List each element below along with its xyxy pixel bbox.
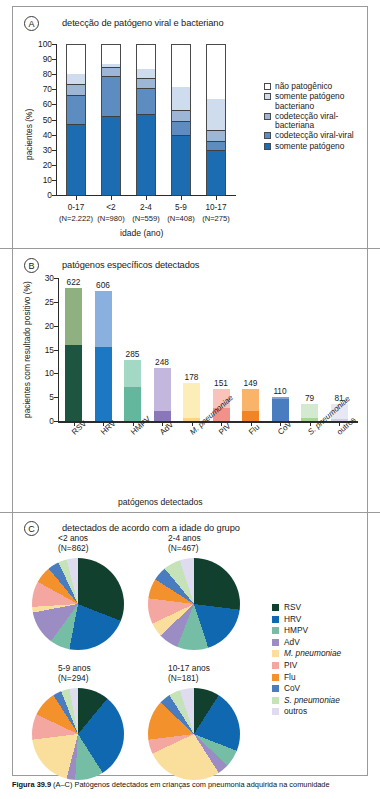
panel-a-bar-segment	[102, 77, 120, 118]
panel-a-bar-segment	[67, 96, 85, 125]
panel-a-bar-segment	[172, 111, 190, 122]
panel-a-y-tick: 20	[28, 160, 52, 170]
panel-c-pie-chart	[32, 558, 124, 650]
panel-a-bar-segment	[207, 45, 225, 99]
panel-b-bar-value: 79	[294, 393, 326, 403]
panel-b-bar	[272, 397, 289, 421]
panel-a-bar-segment	[137, 79, 155, 89]
panel-a-letter: A	[24, 16, 39, 31]
panel-a-x-tick-mark	[146, 196, 147, 200]
panel-c-legend-swatch	[272, 650, 279, 657]
panel-b-bar-value: 110	[264, 386, 296, 396]
panel-a-category-n: (N=275)	[192, 214, 240, 223]
panel-a-legend-swatch	[264, 143, 271, 150]
panel-a-bar-segment	[102, 45, 120, 64]
panel-a-legend-item: codetecção viral-viral	[264, 131, 370, 141]
panel-a-bar-segment	[207, 142, 225, 151]
panel-c-legend-swatch	[272, 604, 279, 611]
panel-a-bar-segment	[172, 45, 190, 87]
panel-c-legend-item: HRV	[272, 614, 341, 626]
panel-a-bar-segment	[102, 68, 120, 76]
panel-c-legend-swatch	[272, 662, 279, 669]
panel-b-bar-lower	[242, 411, 259, 421]
panel-b-bar-lower	[65, 345, 82, 421]
panel-b-bar-upper	[242, 389, 259, 410]
panel-a-y-tick: 90	[28, 54, 52, 64]
panel-a-legend-label: codetecção viral-bacteriana	[264, 112, 370, 131]
panel-c-legend-swatch	[272, 685, 279, 692]
panel-a-x-tick-mark	[181, 196, 182, 200]
panel-b-bar-value: 606	[87, 280, 119, 290]
panel-c-pie-n: (N=467)	[168, 544, 199, 554]
panel-c-legend-item: RSV	[272, 602, 341, 614]
panel-a-y-tick: 0	[28, 190, 52, 200]
panel-c-pie-chart	[32, 688, 124, 780]
panel-a-y-tick: 100	[28, 39, 52, 49]
panel-b-bar-upper	[65, 288, 82, 345]
panel-a-x-tick-mark	[76, 196, 77, 200]
panel-c-legend-label: Flu	[272, 672, 341, 684]
panel-b-bar-upper	[95, 291, 112, 347]
panel-a-stacked-bar	[171, 44, 191, 195]
panel-a-bar-segment	[172, 122, 190, 136]
panel-b-bar	[95, 291, 112, 421]
panel-b-y-tick: 30	[30, 273, 54, 283]
panel-b-bar-value: 248	[146, 357, 178, 367]
panel-b-bar	[124, 360, 141, 421]
panel-c-legend-item: outros	[272, 706, 341, 718]
panel-c-title: detectados de acordo com a idade do grup…	[62, 523, 240, 533]
panel-a-legend-swatch	[264, 83, 271, 90]
panel-b-y-axis	[58, 278, 59, 421]
panel-b-bar-value: 622	[58, 277, 90, 287]
panel-c-legend-swatch	[272, 697, 279, 704]
panel-b-bar	[301, 404, 318, 421]
panel-a-legend-item: codetecção viral-bacteriana	[264, 112, 370, 131]
panel-c-legend-item: CoV	[272, 683, 341, 695]
panel-b-bar	[242, 389, 259, 421]
panel-a-bar-segment	[137, 45, 155, 69]
panel-b-y-tick: 5	[30, 392, 54, 402]
panel-a-bar-segment	[67, 74, 85, 85]
panel-c-legend-item: AdV	[272, 637, 341, 649]
panel-a-x-tick-mark	[216, 196, 217, 200]
panel-divider-a-b	[0, 248, 380, 249]
panel-a-y-tick: 10	[28, 175, 52, 185]
panel-a-y-axis	[56, 44, 57, 195]
panel-b-bar-upper	[154, 368, 171, 411]
panel-c-pie-n: (N=862)	[58, 544, 89, 554]
panel-a-bar-segment	[207, 99, 225, 131]
panel-a-title: detecção de patógeno viral e bacteriano	[62, 18, 224, 28]
panel-c-legend-label: S. pneumoniae	[272, 695, 341, 707]
panel-a-category-age: 10-17	[192, 203, 240, 212]
panel-a-stacked-bar	[206, 44, 226, 195]
panel-b-y-tick: 20	[30, 321, 54, 331]
panel-a-legend-label: codetecção viral-viral	[264, 131, 370, 141]
panel-c-legend-label: M. pneumoniae	[272, 648, 341, 660]
panel-a-x-tick-mark	[111, 196, 112, 200]
panel-a-y-tick: 60	[28, 99, 52, 109]
panel-b-bar-lower	[272, 399, 289, 421]
panel-a-legend-item: somente patógeno bacteriano	[264, 92, 370, 111]
panel-b-bar-upper	[301, 404, 318, 418]
panel-c-legend-swatch	[272, 639, 279, 646]
panel-c-legend-item: HMPV	[272, 625, 341, 637]
panel-a-bar-segment	[137, 69, 155, 79]
panel-a-bar-segment	[172, 136, 190, 196]
panel-c-pie-n: (N=181)	[168, 674, 199, 684]
panel-b-bar	[65, 288, 82, 421]
panel-b-bar-value: 178	[176, 372, 208, 382]
panel-c-legend-item: PIV	[272, 660, 341, 672]
panel-a-bar-segment	[207, 131, 225, 142]
panel-b-y-tick: 0	[30, 416, 54, 426]
panel-c-legend-swatch	[272, 674, 279, 681]
panel-c-legend-label: outros	[272, 706, 341, 718]
panel-a-legend-swatch	[264, 93, 271, 100]
panel-a-y-tick: 80	[28, 69, 52, 79]
figure-caption: Figura 39.9 (A–C) Patógenos detectados e…	[12, 780, 372, 789]
panel-b-y-tick: 10	[30, 368, 54, 378]
panel-c-legend-item: M. pneumoniae	[272, 648, 341, 660]
panel-b-letter: B	[24, 258, 39, 273]
figure-container: A detecção de patógeno viral e bacterian…	[0, 0, 380, 799]
panel-b-bar-upper	[183, 383, 200, 418]
panel-c-legend-swatch	[272, 708, 279, 715]
